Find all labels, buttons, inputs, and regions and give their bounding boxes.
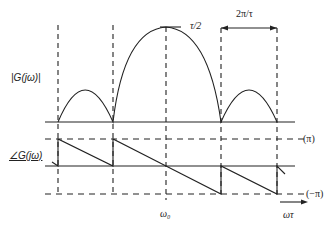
axis-label: ωτ bbox=[283, 209, 294, 220]
pi-label: (π) bbox=[303, 133, 315, 144]
magnitude-curve bbox=[58, 27, 277, 122]
period-label: 2π/τ bbox=[236, 8, 253, 19]
phase-label: ∠G(jω) bbox=[9, 150, 42, 161]
sinc-diagram bbox=[0, 0, 333, 229]
peak-label: τ/2 bbox=[190, 20, 201, 31]
center-frequency-label: ω₀ bbox=[160, 208, 171, 219]
neg-pi-label: (−π) bbox=[306, 188, 323, 199]
magnitude-label: |G(jω)| bbox=[11, 72, 41, 83]
vertical-guides bbox=[58, 25, 277, 200]
